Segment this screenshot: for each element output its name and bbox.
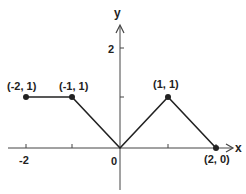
point-label-neg1-1: (-1, 1) xyxy=(59,80,89,92)
x-tick-label--2: -2 xyxy=(19,154,29,166)
point-label-2-0: (2, 0) xyxy=(204,153,230,165)
point-label-neg2-1: (-2, 1) xyxy=(7,80,37,92)
y-tick-label-2: 2 xyxy=(108,43,114,55)
x-axis-label: x xyxy=(235,141,242,155)
point-marker xyxy=(165,94,171,100)
point-marker xyxy=(213,145,219,151)
point-label-1-1: (1, 1) xyxy=(153,78,179,90)
function-line xyxy=(26,97,216,148)
point-marker xyxy=(23,94,29,100)
y-axis-label: y xyxy=(114,6,121,20)
origin-label: 0 xyxy=(111,155,117,167)
function-graph: y x 2 -2 0 (-2, 1) (-1, 1) (1, 1) (2, 0) xyxy=(0,0,246,194)
point-marker xyxy=(69,94,75,100)
